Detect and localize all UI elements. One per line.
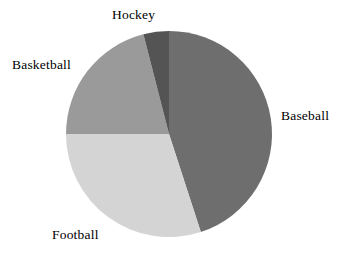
- pie-label-baseball: Baseball: [281, 109, 329, 123]
- pie-label-hockey: Hockey: [112, 8, 155, 22]
- pie-chart-figure: Hockey Basketball Baseball Football: [0, 0, 350, 259]
- pie-label-basketball: Basketball: [12, 58, 71, 72]
- pie-label-football: Football: [52, 228, 99, 242]
- pie-chart-canvas: [0, 0, 350, 259]
- pie-slice-group: [66, 31, 272, 237]
